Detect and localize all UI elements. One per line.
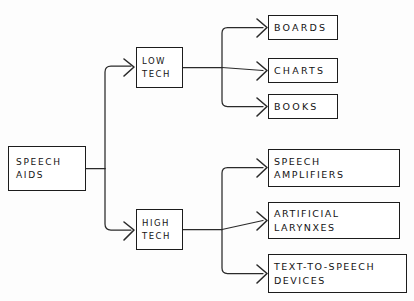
node-speech-amplifiers[interactable]: SPEECH AMPLIFIERS <box>268 149 400 187</box>
node-speech-aids-line-1: SPEECH <box>16 156 85 169</box>
node-low-tech-line-1: LOW <box>142 55 182 67</box>
node-high-tech-line-1: HIGH <box>142 217 182 229</box>
node-books[interactable]: BOOKS <box>268 94 338 119</box>
node-text-to-speech-devices[interactable]: TEXT-TO-SPEECH DEVICES <box>268 254 407 293</box>
node-text-to-speech-devices-line-1: TEXT-TO-SPEECH <box>274 260 406 273</box>
node-artificial-larynxes-line-2: LARYNXES <box>274 221 399 234</box>
node-speech-aids-line-2: AIDS <box>16 169 85 182</box>
node-artificial-larynxes[interactable]: ARTIFICIAL LARYNXES <box>268 202 400 239</box>
edge-low-tech-to-books <box>222 68 263 107</box>
node-charts[interactable]: CHARTS <box>268 58 338 83</box>
edge-root-to-high-tech <box>105 169 131 231</box>
arrowhead-low-tech <box>124 59 134 76</box>
node-speech-amplifiers-line-1: SPEECH <box>274 155 399 168</box>
edge-high-tech-to-artificial-larynxes <box>222 221 263 230</box>
edge-low-tech-to-charts <box>222 68 263 71</box>
node-artificial-larynxes-line-1: ARTIFICIAL <box>274 207 399 220</box>
node-low-tech[interactable]: LOW TECH <box>136 47 183 88</box>
node-high-tech[interactable]: HIGH TECH <box>136 209 183 250</box>
edge-high-tech-to-text-to-speech-devices <box>222 230 263 274</box>
node-high-tech-line-2: TECH <box>142 230 182 242</box>
node-text-to-speech-devices-line-2: DEVICES <box>274 274 406 287</box>
node-books-label: BOOKS <box>274 100 337 113</box>
node-speech-aids[interactable]: SPEECH AIDS <box>8 146 86 191</box>
node-boards[interactable]: BOARDS <box>268 15 338 40</box>
diagram-canvas: SPEECH AIDS LOW TECH HIGH TECH BOARDS CH… <box>0 0 414 301</box>
node-charts-label: CHARTS <box>274 64 337 77</box>
node-low-tech-line-2: TECH <box>142 68 182 80</box>
edge-root-to-low-tech <box>105 66 131 169</box>
node-speech-amplifiers-line-2: AMPLIFIERS <box>274 168 399 181</box>
arrowhead-high-tech <box>124 222 134 240</box>
node-boards-label: BOARDS <box>274 21 337 34</box>
